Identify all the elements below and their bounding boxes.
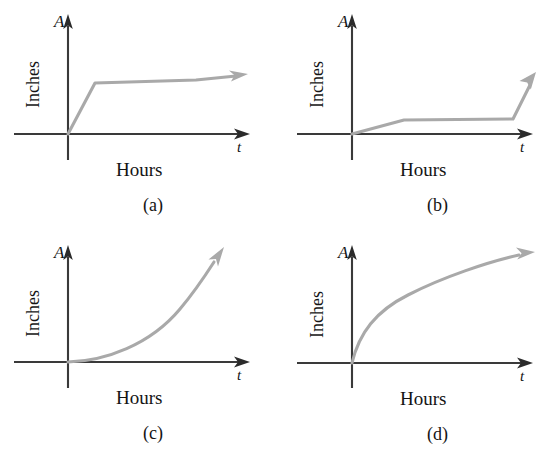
- panel-c-plot: [0, 233, 273, 466]
- y-axis-label-inches: Inches: [308, 61, 326, 108]
- data-curve-c-arrowhead-icon: [209, 247, 225, 267]
- data-curve-c: [68, 262, 214, 362]
- y-axis-label-inches: Inches: [308, 291, 326, 338]
- panel-d: A t Inches Hours (d): [273, 233, 546, 466]
- y-axis-label-inches: Inches: [24, 61, 42, 108]
- panel-caption-b: (b): [427, 196, 448, 214]
- panel-a: A t Inches Hours (a): [0, 0, 273, 233]
- panel-c: A t Inches Hours (c): [0, 233, 273, 466]
- x-axis-symbol-t: t: [520, 369, 524, 384]
- x-axis-label-hours: Hours: [400, 389, 446, 408]
- data-curve-b: [352, 85, 530, 134]
- y-axis-symbol-a: A: [338, 13, 348, 30]
- figure-root: A t Inches Hours (a) A t Inches Hours (b…: [0, 0, 546, 466]
- data-curve-d: [352, 255, 519, 363]
- panel-b: A t Inches Hours (b): [273, 0, 546, 233]
- y-axis-label-inches: Inches: [24, 290, 42, 337]
- panel-d-plot: [273, 233, 546, 466]
- y-axis-symbol-a: A: [54, 244, 64, 261]
- x-axis-symbol-t: t: [237, 140, 241, 155]
- x-axis-label-hours: Hours: [116, 160, 162, 179]
- panel-a-plot: [0, 0, 273, 233]
- panel-b-plot: [273, 0, 546, 233]
- x-axis-label-hours: Hours: [116, 388, 162, 407]
- y-axis-symbol-a: A: [54, 13, 64, 30]
- panel-caption-c: (c): [143, 424, 163, 442]
- y-axis-symbol-a: A: [338, 244, 348, 261]
- panel-caption-d: (d): [427, 425, 448, 443]
- data-curve-a: [68, 76, 236, 134]
- x-axis-symbol-t: t: [237, 368, 241, 383]
- panel-caption-a: (a): [143, 196, 163, 214]
- x-axis-label-hours: Hours: [400, 160, 446, 179]
- x-axis-symbol-t: t: [520, 140, 524, 155]
